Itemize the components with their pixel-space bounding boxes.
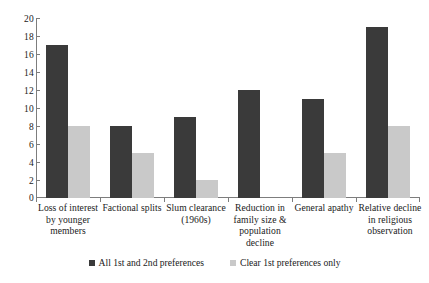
bar-group: [356, 18, 420, 198]
bar-group: [292, 18, 356, 198]
y-tick-label: 16: [4, 51, 34, 61]
plot-area: [36, 18, 420, 198]
legend-label: Clear 1st preferences only: [240, 258, 340, 268]
category-label-line: population: [224, 225, 296, 237]
bar-group: [164, 18, 228, 198]
category-label-line: family size &: [224, 214, 296, 226]
legend-swatch-light-icon: [230, 260, 236, 266]
bar-series-2: [388, 126, 410, 198]
bar-chart: 20 18 16 14 12 10 8 6 4 2 0: [0, 0, 429, 283]
y-tick-label: 2: [4, 177, 34, 187]
y-tick-label: 20: [4, 15, 34, 25]
category-label-line: Slum clearance: [160, 202, 232, 214]
category-label-line: members: [32, 225, 104, 237]
category-label-line: observation: [352, 225, 428, 237]
category-label-line: General apathy: [288, 202, 360, 214]
bar-series-1: [366, 27, 388, 198]
legend-item-clear-first-preferences: Clear 1st preferences only: [230, 258, 340, 268]
bar-group: [36, 18, 100, 198]
bar-series-1: [174, 117, 196, 198]
category-label-general-apathy: General apathy: [288, 202, 360, 214]
y-tick-label: 10: [4, 105, 34, 115]
bar-series-2: [68, 126, 90, 198]
category-label-line: by younger: [32, 214, 104, 226]
y-tick-label: 6: [4, 141, 34, 151]
bar-series-2: [324, 153, 346, 198]
legend-item-all-preferences: All 1st and 2nd preferences: [89, 258, 205, 268]
category-label-line: Reduction in: [224, 202, 296, 214]
bar-series-2: [132, 153, 154, 198]
bar-group: [100, 18, 164, 198]
bar-series-1: [46, 45, 68, 198]
category-label-slum-clearance: Slum clearance (1960s): [160, 202, 232, 225]
x-axis-category-labels: Loss of interest by younger members Fact…: [36, 202, 420, 254]
category-label-line: Factional splits: [96, 202, 168, 214]
y-tick-label: 18: [4, 33, 34, 43]
y-tick-label: 14: [4, 69, 34, 79]
legend-label: All 1st and 2nd preferences: [99, 258, 205, 268]
bar-series-1: [110, 126, 132, 198]
category-label-line: Loss of interest: [32, 202, 104, 214]
category-label-loss-of-interest: Loss of interest by younger members: [32, 202, 104, 237]
y-axis-tick-labels: 20 18 16 14 12 10 8 6 4 2 0: [0, 0, 34, 283]
category-label-line: (1960s): [160, 214, 232, 226]
y-tick-label: 8: [4, 123, 34, 133]
chart-legend: All 1st and 2nd preferences Clear 1st pr…: [0, 258, 429, 268]
bar-group: [228, 18, 292, 198]
y-tick-label: 4: [4, 159, 34, 169]
bar-series-2: [196, 180, 218, 198]
y-tick-label: 0: [4, 194, 34, 204]
y-tick-label: 12: [4, 87, 34, 97]
bar-series-1: [302, 99, 324, 198]
bar-series-1: [238, 90, 260, 198]
legend-swatch-dark-icon: [89, 260, 95, 266]
category-label-line: Relative decline: [352, 202, 428, 214]
category-label-relative-decline: Relative decline in religious observatio…: [352, 202, 428, 237]
category-label-line: in religious: [352, 214, 428, 226]
category-label-line: decline: [224, 237, 296, 249]
category-label-reduction-family-size: Reduction in family size & population de…: [224, 202, 296, 248]
category-label-factional-splits: Factional splits: [96, 202, 168, 214]
